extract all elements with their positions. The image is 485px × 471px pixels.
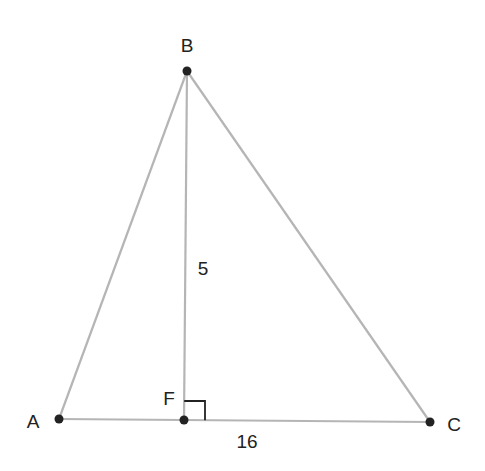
point-a: [55, 415, 64, 424]
segment-ab: [59, 71, 187, 419]
measure-fc: 16: [236, 431, 257, 452]
label-f: F: [163, 388, 175, 409]
measure-bf: 5: [198, 258, 209, 279]
label-c: C: [447, 414, 461, 435]
label-a: A: [27, 411, 40, 432]
segment-bc: [187, 71, 430, 422]
triangle-diagram: A B C F 5 16: [0, 0, 485, 471]
segment-bf-altitude: [184, 71, 187, 420]
point-b: [183, 67, 192, 76]
point-c: [426, 418, 435, 427]
segment-ac: [59, 419, 430, 422]
point-f: [180, 416, 189, 425]
label-b: B: [181, 35, 194, 56]
